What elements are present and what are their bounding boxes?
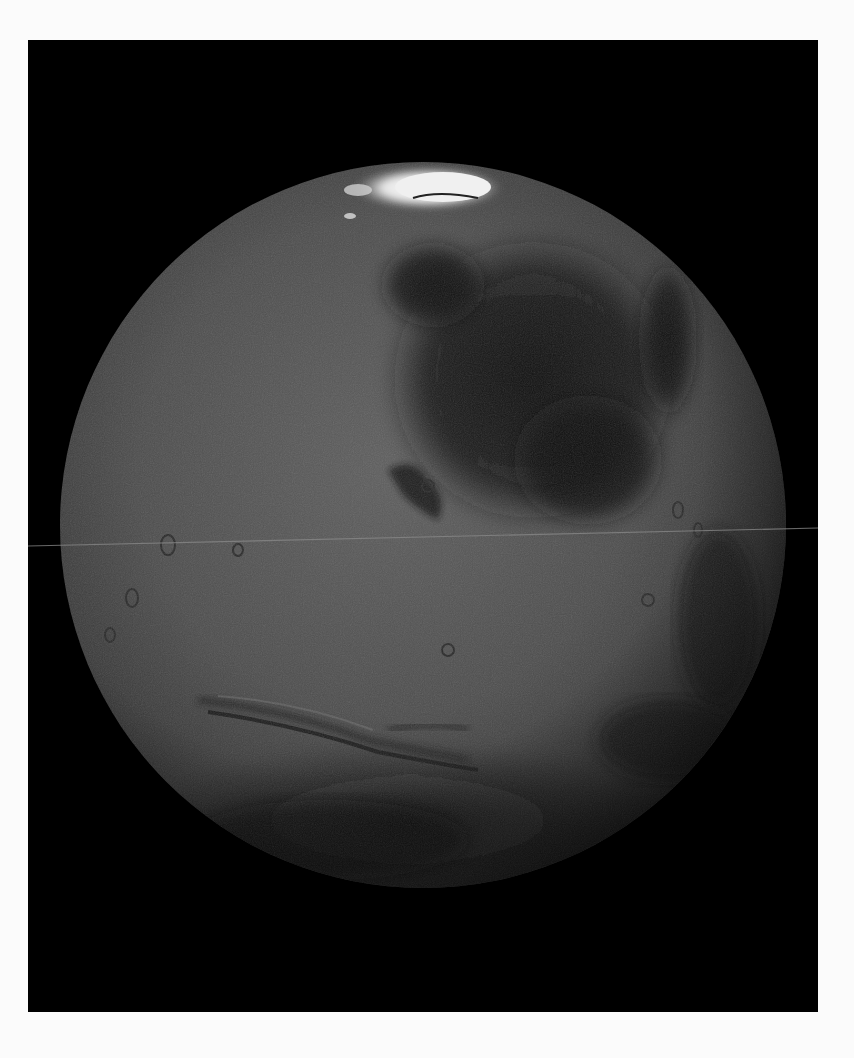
photo-frame — [28, 40, 818, 1012]
planet-disk — [28, 40, 818, 1012]
mars-image — [28, 40, 818, 1012]
